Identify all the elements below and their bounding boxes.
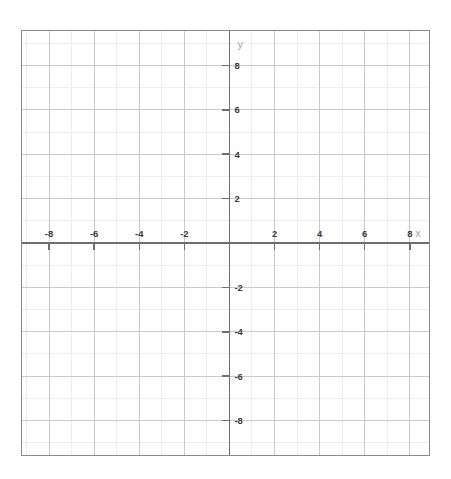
plot-area: -8-6-4-224688642-2-4-6-8xy <box>21 30 430 456</box>
grid-layer <box>22 31 429 455</box>
coordinate-plane-graph: -8-6-4-224688642-2-4-6-8xy <box>0 0 451 479</box>
